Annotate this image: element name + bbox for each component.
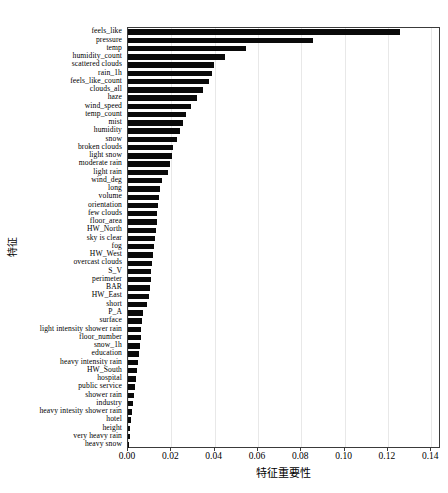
bar-hotel <box>128 417 131 422</box>
bar-row <box>128 170 441 175</box>
bar-floor-number <box>128 335 141 340</box>
bar-very-heavy-rain <box>128 434 130 439</box>
y-tick-label-hw-east: HW_East <box>92 291 122 299</box>
plot-area <box>127 27 440 448</box>
bar-heavy-snow <box>128 442 129 447</box>
bar-series <box>128 28 439 447</box>
bar-temp <box>128 46 246 51</box>
bar-row <box>128 203 441 208</box>
y-tick-label-shower-rain: shower rain <box>85 391 122 399</box>
bar-light-intensity-shower-rain <box>128 327 141 332</box>
bar-snow-1h <box>128 343 140 348</box>
bar-orientation <box>128 203 158 208</box>
bar-clouds-all <box>128 87 203 92</box>
bar-row <box>128 54 441 59</box>
bar-row <box>128 153 441 158</box>
bar-short <box>128 302 147 307</box>
bar-row <box>128 318 441 323</box>
bar-hw-west <box>128 252 153 257</box>
bar-row <box>128 186 441 191</box>
bar-hw-south <box>128 368 137 373</box>
bar-broken-clouds <box>128 145 173 150</box>
bar-p-a <box>128 310 143 315</box>
bar-hospital <box>128 376 136 381</box>
bar-row <box>128 112 441 117</box>
bar-rain-1h <box>128 71 212 76</box>
y-tick-label-humidity: humidity <box>94 126 122 134</box>
bar-row <box>128 71 441 76</box>
x-tick-label-0.02: 0.02 <box>162 451 179 462</box>
bar-education <box>128 351 139 356</box>
bar-bar <box>128 285 150 290</box>
x-tick-label-0.00: 0.00 <box>119 451 136 462</box>
y-tick-label-hw-north: HW_North <box>87 225 122 233</box>
y-axis-tick-labels: feels_likepressuretemphumidity_countscat… <box>0 27 125 448</box>
bar-row <box>128 327 441 332</box>
bar-humidity <box>128 128 180 133</box>
bar-row <box>128 244 441 249</box>
bar-overcast-clouds <box>128 261 152 266</box>
bar-row <box>128 236 441 241</box>
bar-light-snow <box>128 153 172 158</box>
bar-feels-like-count <box>128 79 209 84</box>
y-tick-label-haze: haze <box>108 93 122 101</box>
bar-haze <box>128 95 197 100</box>
bar-moderate-rain <box>128 161 170 166</box>
bar-row <box>128 277 441 282</box>
bar-temp-count <box>128 112 186 117</box>
bar-row <box>128 87 441 92</box>
bar-industry <box>128 401 133 406</box>
y-tick-label-public-service: public service <box>78 382 122 390</box>
y-tick-label-volume: volume <box>99 192 122 200</box>
bar-scattered-clouds <box>128 62 214 67</box>
y-tick-label-overcast-clouds: overcast clouds <box>73 258 122 266</box>
x-tick-label-0.06: 0.06 <box>249 451 266 462</box>
bar-row <box>128 269 441 274</box>
y-tick-label-hotel: hotel <box>106 415 122 423</box>
bar-row <box>128 376 441 381</box>
bar-row <box>128 252 441 257</box>
y-tick-label-feels-like: feels_like <box>91 27 122 35</box>
bar-row <box>128 228 441 233</box>
bar-mist <box>128 120 183 125</box>
bar-row <box>128 294 441 299</box>
bar-feels-like <box>128 29 400 34</box>
bar-row <box>128 261 441 266</box>
bar-snow <box>128 137 177 142</box>
bar-row <box>128 401 441 406</box>
x-tick-label-0.12: 0.12 <box>379 451 396 462</box>
bar-row <box>128 426 441 431</box>
bar-volume <box>128 195 159 200</box>
y-tick-label-education: education <box>92 349 122 357</box>
bar-long <box>128 186 160 191</box>
bar-row <box>128 384 441 389</box>
bar-row <box>128 360 441 365</box>
bar-public-service <box>128 384 135 389</box>
bar-sky-is-clear <box>128 236 155 241</box>
bar-row <box>128 161 441 166</box>
bar-surface <box>128 318 142 323</box>
y-tick-label-light-intensity-shower-rain: light intensity shower rain <box>40 325 122 333</box>
bar-shower-rain <box>128 393 134 398</box>
y-tick-label-scattered-clouds: scattered clouds <box>72 60 122 68</box>
x-axis-title: 特征重要性 <box>127 464 440 480</box>
bar-fog <box>128 244 154 249</box>
bar-row <box>128 95 441 100</box>
bar-row <box>128 417 441 422</box>
x-tick-label-0.10: 0.10 <box>335 451 352 462</box>
bar-row <box>128 79 441 84</box>
bar-row <box>128 393 441 398</box>
bar-row <box>128 178 441 183</box>
bar-row <box>128 310 441 315</box>
bar-row <box>128 434 441 439</box>
bar-row <box>128 29 441 34</box>
bar-row <box>128 302 441 307</box>
bar-wind-deg <box>128 178 162 183</box>
bar-row <box>128 442 441 447</box>
x-tick-label-0.14: 0.14 <box>422 451 439 462</box>
bar-row <box>128 343 441 348</box>
x-tick-label-0.04: 0.04 <box>205 451 222 462</box>
bar-row <box>128 368 441 373</box>
bar-hw-east <box>128 294 149 299</box>
x-tick-label-0.08: 0.08 <box>292 451 309 462</box>
